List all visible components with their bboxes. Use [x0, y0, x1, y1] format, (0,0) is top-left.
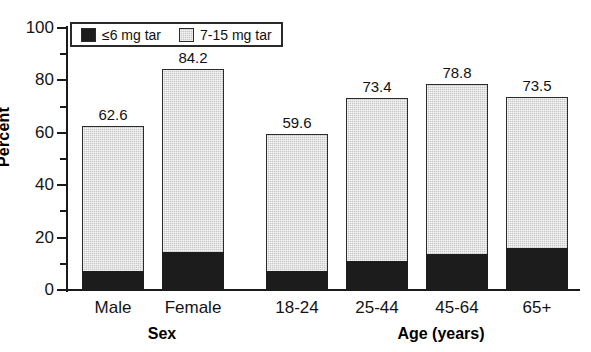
- legend-label-mid-tar: 7-15 mg tar: [200, 28, 272, 42]
- legend: ≤6 mg tar 7-15 mg tar: [70, 22, 283, 47]
- y-tick-label: 40: [8, 176, 54, 193]
- bar-value-label-a45: 78.8: [416, 65, 498, 80]
- bar-value-label-female: 84.2: [152, 50, 234, 65]
- y-tick-major: [57, 79, 66, 81]
- bar-a25: [346, 98, 408, 290]
- y-tick-label: 60: [8, 124, 54, 141]
- bar-male: [82, 126, 144, 290]
- bar-segment-low-tar-a18: [266, 271, 328, 290]
- y-tick-major: [57, 184, 66, 186]
- bar-segment-low-tar-female: [162, 252, 224, 290]
- y-tick-label: 80: [8, 71, 54, 88]
- y-tick-major: [57, 289, 66, 291]
- y-tick-major: [57, 27, 66, 29]
- bar-value-label-a18: 59.6: [256, 115, 338, 130]
- bar-segment-low-tar-a25: [346, 261, 408, 290]
- y-tick-major: [57, 132, 66, 134]
- bar-value-label-a65: 73.5: [496, 78, 578, 93]
- y-tick-label: 0: [8, 281, 54, 298]
- legend-item-low-tar: ≤6 mg tar: [81, 28, 161, 42]
- bar-segment-low-tar-male: [82, 271, 144, 290]
- bar-segment-low-tar-a45: [426, 254, 488, 290]
- y-axis-title: Percent: [0, 107, 13, 167]
- bar-female: [162, 69, 224, 290]
- bar-a18: [266, 134, 328, 290]
- y-tick-label: 20: [8, 229, 54, 246]
- x-group-title-age: Age (years): [361, 325, 521, 343]
- legend-swatch-icon-low-tar: [81, 28, 96, 42]
- bar-value-label-a25: 73.4: [336, 79, 418, 94]
- bar-value-label-male: 62.6: [72, 107, 154, 122]
- x-group-title-sex: Sex: [82, 325, 242, 343]
- plot-area: 62.684.259.673.478.873.5: [66, 28, 576, 290]
- chart-container: 020406080100 Percent 62.684.259.673.478.…: [0, 0, 591, 352]
- legend-item-mid-tar: 7-15 mg tar: [179, 28, 272, 42]
- legend-label-low-tar: ≤6 mg tar: [102, 28, 161, 42]
- y-tick-label: 100: [8, 19, 54, 36]
- bar-segment-low-tar-a65: [506, 248, 568, 290]
- clipped-header-text: [12, 0, 572, 6]
- x-category-label-a65: 65+: [488, 299, 586, 317]
- bar-a65: [506, 97, 568, 290]
- y-tick-major: [57, 237, 66, 239]
- legend-swatch-icon-mid-tar: [179, 28, 194, 42]
- bar-a45: [426, 84, 488, 290]
- x-category-label-female: Female: [144, 299, 242, 317]
